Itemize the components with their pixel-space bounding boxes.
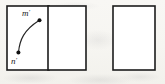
endpoint-dot-m-prime bbox=[38, 18, 42, 22]
panel-middle-rectangle bbox=[48, 6, 86, 70]
endpoint-dot-n-prime bbox=[16, 51, 20, 55]
figure-canvas: m′ n′ bbox=[0, 0, 165, 84]
figure-container: m′ n′ bbox=[0, 0, 165, 84]
panel-right-rectangle bbox=[113, 6, 155, 70]
